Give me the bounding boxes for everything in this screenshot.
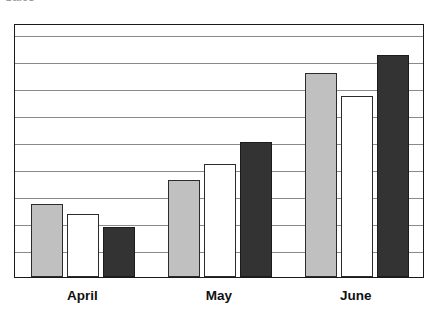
plot-area — [14, 24, 424, 278]
bar-june-series-2 — [341, 96, 373, 277]
category-label-may: May — [206, 288, 232, 303]
bar-june-series-1 — [305, 73, 337, 277]
bar-june-series-3 — [377, 55, 409, 277]
category-label-april: April — [67, 288, 98, 303]
bar-may-series-2 — [204, 164, 236, 278]
bars-layer — [15, 25, 423, 277]
bar-april-series-2 — [67, 214, 99, 278]
chart-title-clipped: Sales — [5, 0, 35, 3]
bar-may-series-1 — [168, 180, 200, 277]
bar-april-series-3 — [103, 227, 135, 277]
bar-may-series-3 — [240, 142, 272, 277]
chart-figure: Sales AprilMayJune — [0, 0, 437, 318]
category-axis-labels: AprilMayJune — [14, 288, 424, 310]
bar-april-series-1 — [31, 204, 63, 277]
category-label-june: June — [340, 288, 372, 303]
